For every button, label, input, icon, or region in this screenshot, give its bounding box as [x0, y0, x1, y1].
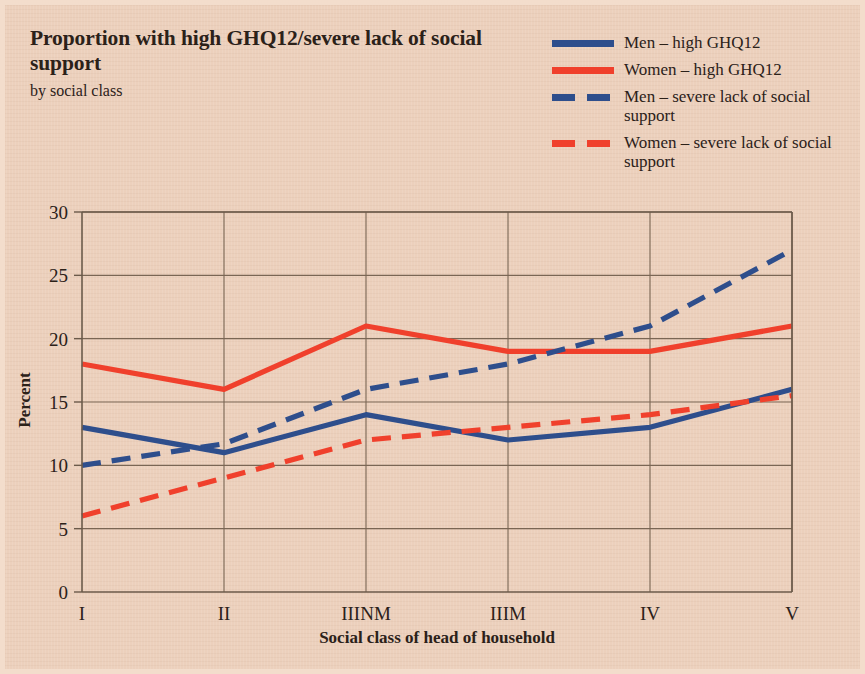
y-axis-tick-label: 20	[49, 329, 68, 350]
x-axis-tick-label: I	[79, 603, 85, 624]
x-axis-tick-label: V	[785, 603, 799, 624]
line-chart: 051015202530IIIIIINMIIIMIVV Percent Soci…	[0, 0, 865, 674]
y-axis-title: Percent	[15, 372, 34, 428]
x-axis-tick-label: IIINM	[341, 603, 391, 624]
y-axis-tick-label: 15	[49, 392, 68, 413]
y-axis-tick-label: 30	[49, 202, 68, 223]
chart-area: 051015202530IIIIIINMIIIMIVV Percent Soci…	[0, 0, 865, 674]
axis-tick-labels: 051015202530IIIIIINMIIIMIVV	[49, 202, 799, 624]
y-axis-tick-label: 25	[49, 265, 68, 286]
series-line	[82, 389, 792, 452]
x-axis-tick-label: II	[218, 603, 231, 624]
y-axis-tick-label: 0	[59, 582, 69, 603]
y-axis-tick-label: 5	[59, 519, 69, 540]
series-line	[82, 396, 792, 516]
x-axis-tick-label: IIIM	[490, 603, 526, 624]
series-line	[82, 326, 792, 389]
data-series	[82, 250, 792, 516]
x-axis-title: Social class of head of household	[319, 628, 555, 647]
y-axis-tick-label: 10	[49, 455, 68, 476]
x-axis-tick-label: IV	[640, 603, 660, 624]
grid-lines	[82, 212, 792, 592]
axis-ticks	[74, 212, 82, 592]
